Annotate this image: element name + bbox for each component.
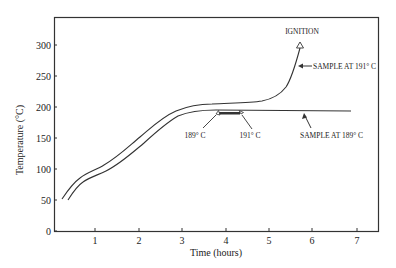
x-tick-label: 5 (267, 235, 272, 246)
ignition-label: IGNITION (285, 27, 319, 36)
t191-label: 191° C (239, 131, 260, 140)
arrow-191c-line (242, 115, 252, 129)
t189-label: 189° C (184, 131, 205, 140)
arrow-head-icon (216, 111, 220, 116)
x-axis-label: Time (hours) (190, 247, 242, 259)
arrow-189c-line (203, 115, 216, 128)
y-tick-label: 0 (46, 226, 51, 237)
ignition-triangle-icon (297, 42, 304, 48)
y-tick-label: 50 (41, 195, 51, 206)
x-tick-label: 1 (93, 235, 98, 246)
plot-frame (55, 18, 379, 232)
series-191-line (62, 48, 300, 199)
y-axis-label: Temperature (°C) (14, 105, 26, 175)
y-tick-label: 100 (36, 164, 51, 175)
x-tick-label: 4 (224, 235, 229, 246)
y-tick-label: 200 (36, 102, 51, 113)
sample-191-label: SAMPLE AT 191° C (313, 62, 376, 71)
x-tick-label: 3 (180, 235, 185, 246)
x-tick-label: 2 (137, 235, 142, 246)
y-tick-label: 250 (36, 71, 51, 82)
y-tick-label: 300 (36, 40, 51, 51)
x-axis (95, 228, 357, 231)
x-tick-label: 6 (310, 235, 315, 246)
temperature-range-bar (219, 112, 240, 115)
arrow-left-icon (298, 64, 303, 69)
chart-canvas: 0 50 100 150 200 250 300 1 2 3 4 5 6 7 T… (0, 0, 396, 268)
x-tick-label: 7 (355, 235, 360, 246)
y-tick-label: 150 (36, 133, 51, 144)
sample-189-label: SAMPLE AT 189° C (300, 131, 363, 140)
